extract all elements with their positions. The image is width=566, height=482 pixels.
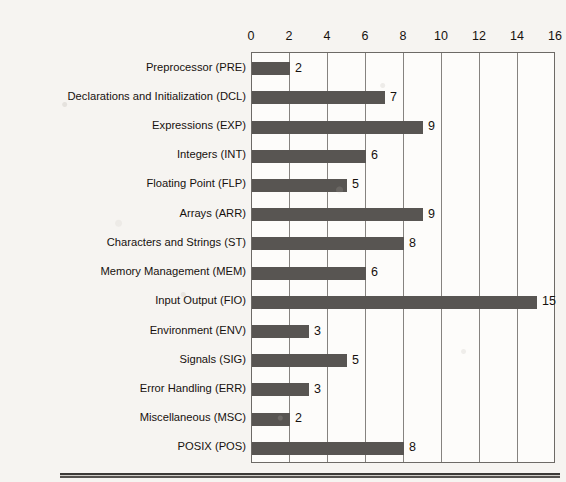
category-label-11: Signals (SIG) <box>179 353 246 366</box>
x-axis-tick-labels: 0246810121416 <box>40 29 566 47</box>
category-label-3: Expressions (EXP) <box>152 119 246 132</box>
category-label-9: Input Output (FIO) <box>155 294 246 307</box>
bar-row[interactable]: 6 <box>252 150 556 163</box>
gridline-8 <box>403 53 404 462</box>
bar-row[interactable]: 3 <box>252 383 556 396</box>
gridline-4 <box>327 53 328 462</box>
bar-row[interactable]: 9 <box>252 208 556 221</box>
bar-8[interactable] <box>252 267 366 280</box>
bar-11[interactable] <box>252 354 347 367</box>
bar-row[interactable]: 2 <box>252 413 556 426</box>
bar-value-label: 7 <box>385 91 397 104</box>
x-tick-label-2: 2 <box>286 29 293 43</box>
bar-value-label: 2 <box>290 62 302 75</box>
bar-value-label: 5 <box>347 179 359 192</box>
bar-1[interactable] <box>252 62 290 75</box>
bar-row[interactable]: 8 <box>252 442 556 455</box>
bar-row[interactable]: 5 <box>252 354 556 367</box>
category-label-1: Preprocessor (PRE) <box>146 61 246 74</box>
x-tick-label-12: 12 <box>472 29 486 43</box>
bar-value-label: 8 <box>404 237 416 250</box>
category-label-7: Characters and Strings (ST) <box>107 236 246 249</box>
x-tick-label-0: 0 <box>248 29 255 43</box>
category-label-5: Floating Point (FLP) <box>147 177 247 190</box>
bar-10[interactable] <box>252 325 309 338</box>
bar-row[interactable]: 15 <box>252 296 556 309</box>
bar-value-label: 5 <box>347 354 359 367</box>
category-label-6: Arrays (ARR) <box>179 207 246 220</box>
bar-9[interactable] <box>252 296 537 309</box>
bar-value-label: 6 <box>366 149 378 162</box>
category-label-4: Integers (INT) <box>177 148 246 161</box>
category-label-8: Memory Management (MEM) <box>101 265 246 278</box>
gridline-14 <box>517 53 518 462</box>
bar-value-label: 8 <box>404 442 416 455</box>
bar-6[interactable] <box>252 208 423 221</box>
gridline-6 <box>365 53 366 462</box>
bar-value-label: 9 <box>423 208 435 221</box>
bar-3[interactable] <box>252 121 423 134</box>
x-tick-label-16: 16 <box>548 29 562 43</box>
bar-row[interactable]: 3 <box>252 325 556 338</box>
bar-13[interactable] <box>252 413 290 426</box>
horizontal-bar-chart: 0246810121416 279659861535328 Preprocess… <box>40 16 566 482</box>
bar-7[interactable] <box>252 237 404 250</box>
bar-row[interactable]: 2 <box>252 62 556 75</box>
category-label-2: Declarations and Initialization (DCL) <box>68 90 246 103</box>
bar-value-label: 2 <box>290 412 302 425</box>
gridline-12 <box>479 53 480 462</box>
gridline-10 <box>441 53 442 462</box>
bar-row[interactable]: 6 <box>252 267 556 280</box>
bar-row[interactable]: 5 <box>252 179 556 192</box>
x-tick-label-6: 6 <box>362 29 369 43</box>
bar-2[interactable] <box>252 91 385 104</box>
bar-row[interactable]: 8 <box>252 237 556 250</box>
x-tick-label-14: 14 <box>510 29 524 43</box>
x-tick-label-4: 4 <box>324 29 331 43</box>
x-tick-label-8: 8 <box>400 29 407 43</box>
bar-value-label: 3 <box>309 383 321 396</box>
category-label-10: Environment (ENV) <box>150 324 246 337</box>
gridline-2 <box>289 53 290 462</box>
bar-row[interactable]: 9 <box>252 121 556 134</box>
category-label-12: Error Handling (ERR) <box>140 382 246 395</box>
bar-14[interactable] <box>252 442 404 455</box>
bar-4[interactable] <box>252 150 366 163</box>
bar-value-label: 9 <box>423 120 435 133</box>
bar-value-label: 6 <box>366 266 378 279</box>
bottom-divider-rule <box>60 473 560 479</box>
bar-row[interactable]: 7 <box>252 91 556 104</box>
rule-line-lower <box>60 476 560 478</box>
plot-area: 279659861535328 <box>251 52 555 463</box>
bar-5[interactable] <box>252 179 347 192</box>
category-label-13: Miscellaneous (MSC) <box>140 411 246 424</box>
bar-value-label: 3 <box>309 325 321 338</box>
bar-12[interactable] <box>252 383 309 396</box>
x-tick-label-10: 10 <box>434 29 448 43</box>
category-label-14: POSIX (POS) <box>178 440 246 453</box>
bar-value-label: 15 <box>537 296 556 309</box>
